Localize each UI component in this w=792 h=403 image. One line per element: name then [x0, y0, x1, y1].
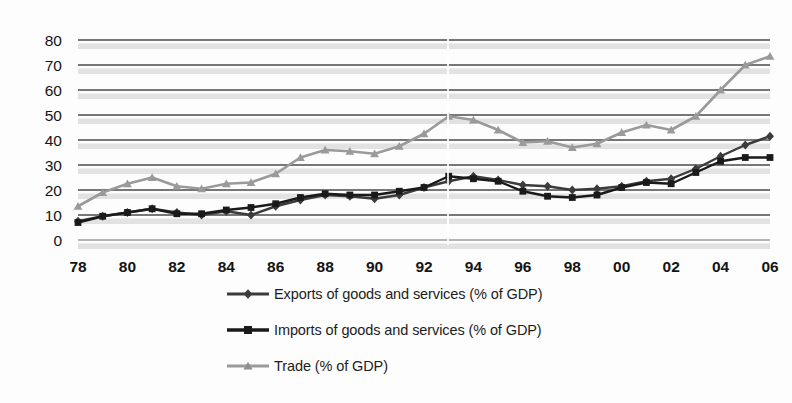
x-tick-label: 80: [119, 258, 136, 275]
data-point-marker: [519, 188, 526, 195]
legend-label-trade: Trade (% of GDP): [274, 358, 388, 374]
legend-swatch-svg-0: [226, 287, 270, 301]
x-tick-label: 98: [564, 258, 582, 275]
x-tick-label: 04: [712, 258, 730, 275]
data-point-marker: [248, 204, 255, 211]
data-point-marker: [544, 193, 551, 200]
gridline-shadow: [78, 244, 770, 250]
x-tick-label: 86: [267, 258, 285, 275]
plot-area: 01020304050607080 7880828486889092949698…: [0, 0, 792, 300]
data-point-marker: [569, 194, 576, 201]
data-point-marker: [223, 207, 230, 214]
legend-marker-square-icon: [226, 323, 270, 337]
gridline-shadow: [78, 119, 770, 125]
y-tick-label: 80: [45, 32, 63, 49]
y-tick-label: 40: [45, 132, 63, 149]
legend-marker-diamond-icon: [226, 287, 270, 301]
data-point-marker: [445, 173, 452, 180]
data-point-marker: [149, 205, 156, 212]
gridline-shadow: [78, 94, 770, 100]
data-point-marker: [594, 192, 601, 199]
data-point-marker: [767, 154, 774, 161]
data-point-marker: [618, 184, 625, 191]
chart-container: 01020304050607080 7880828486889092949698…: [0, 0, 792, 403]
gridline-shadow: [78, 44, 770, 50]
x-tick-label: 90: [366, 258, 383, 275]
y-tick-label: 0: [53, 232, 62, 249]
x-tick-label: 00: [613, 258, 630, 275]
series-group: [74, 52, 775, 226]
data-point-marker: [99, 213, 106, 220]
legend-item-imports[interactable]: Imports of goods and services (% of GDP): [226, 319, 542, 341]
x-tick-label: 06: [761, 258, 779, 275]
data-point-marker: [692, 169, 699, 176]
data-point-marker: [568, 186, 576, 195]
legend-swatch-svg-2: [226, 359, 270, 373]
y-tick-label: 30: [45, 157, 63, 174]
data-point-marker: [421, 184, 428, 191]
gridline-shadow: [78, 69, 770, 75]
data-point-marker: [124, 209, 131, 216]
data-point-marker: [742, 154, 749, 161]
legend-label-imports: Imports of goods and services (% of GDP): [274, 322, 542, 338]
data-point-marker: [322, 190, 329, 197]
x-tick-label: 84: [218, 258, 236, 275]
y-axis-tick-labels: 01020304050607080: [45, 32, 63, 249]
data-point-marker: [766, 52, 775, 60]
x-tick-label: 82: [168, 258, 185, 275]
data-point-marker: [668, 180, 675, 187]
data-point-marker: [297, 194, 304, 201]
gridline-shadow: [78, 169, 770, 175]
gridlines-group: [78, 40, 770, 249]
gridline-shadow: [78, 194, 770, 200]
line-chart-svg: 01020304050607080 7880828486889092949698…: [0, 0, 792, 300]
y-tick-label: 10: [45, 207, 63, 224]
x-tick-label: 96: [514, 258, 532, 275]
legend-swatch-svg-1: [226, 323, 270, 337]
data-point-marker: [717, 158, 724, 165]
data-point-marker: [643, 179, 650, 186]
data-point-marker: [495, 178, 502, 185]
x-tick-label: 92: [415, 258, 432, 275]
data-point-marker: [198, 210, 205, 217]
x-tick-label: 78: [69, 258, 87, 275]
y-tick-label: 70: [45, 57, 63, 74]
data-point-marker: [75, 219, 82, 226]
legend-marker-triangle-icon: [226, 359, 270, 373]
data-point-marker: [470, 175, 477, 182]
x-tick-label: 02: [663, 258, 680, 275]
gridline-shadow: [78, 144, 770, 150]
x-tick-label: 88: [317, 258, 335, 275]
chart-legend: Exports of goods and services (% of GDP)…: [0, 283, 792, 403]
legend-item-trade[interactable]: Trade (% of GDP): [226, 355, 388, 377]
data-point-marker: [272, 200, 279, 207]
data-point-marker: [371, 192, 378, 199]
data-point-marker: [346, 192, 353, 199]
x-tick-label: 94: [465, 258, 483, 275]
gridline-shadow: [78, 219, 770, 225]
data-point-marker: [396, 188, 403, 195]
data-point-marker: [247, 211, 255, 220]
legend-label-exports: Exports of goods and services (% of GDP): [274, 286, 542, 302]
y-tick-label: 50: [45, 107, 63, 124]
x-axis-tick-labels: 788082848688909294969800020406: [69, 258, 779, 275]
data-point-marker: [173, 210, 180, 217]
legend-item-exports[interactable]: Exports of goods and services (% of GDP): [226, 283, 542, 305]
y-tick-label: 60: [45, 82, 63, 99]
y-tick-label: 20: [45, 182, 63, 199]
